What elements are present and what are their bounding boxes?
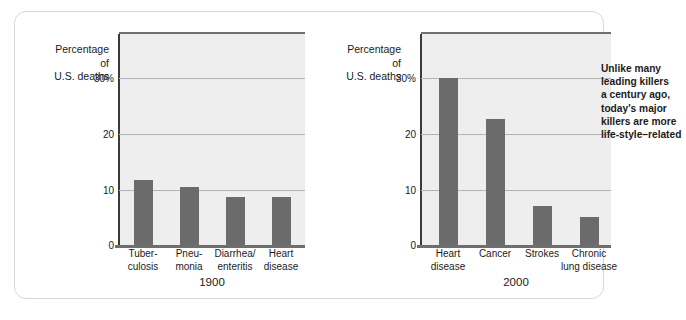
plot-area-1900: 30% 20 10 0 <box>119 32 305 245</box>
y-tick-label-0-1900: 0 <box>108 240 114 251</box>
category-label-line: disease <box>264 261 298 274</box>
category-label-line: Heart <box>264 248 298 261</box>
category-label-line: monia <box>175 261 202 274</box>
y-tick-label-10-1900: 10 <box>103 184 114 195</box>
category-label-line: Chronic <box>561 248 617 261</box>
y-axis-spine-2000 <box>420 34 422 245</box>
bar-pneumonia[interactable] <box>180 187 199 245</box>
chart-2000: Percentage of U.S. deaths 30% 20 10 0 Un… <box>303 12 598 300</box>
category-label-line: Pneu- <box>175 248 202 261</box>
y-tick-label-30-2000: 30% <box>396 73 416 84</box>
category-label-line: Tuber- <box>128 248 159 261</box>
category-label-pneumonia: Pneu- monia <box>175 248 202 273</box>
bar-chronic-lung-disease[interactable] <box>580 217 599 245</box>
y-axis-title-line-2: of <box>21 57 109 71</box>
category-label-heart-disease-2000: Heart disease <box>431 248 465 273</box>
chart-annotation: Unlike many leading killers a century ag… <box>601 62 686 141</box>
category-label-line: disease <box>431 261 465 274</box>
period-label-2000: 2000 <box>503 276 529 288</box>
bar-heart-disease-1900[interactable] <box>272 197 291 245</box>
category-label-tuberculosis: Tuber- culosis <box>128 248 159 273</box>
category-label-cancer: Cancer <box>479 248 511 261</box>
category-label-strokes: Strokes <box>525 248 559 261</box>
annotation-line: life-style–related <box>601 128 686 141</box>
y-tick-label-20-2000: 20 <box>405 129 416 140</box>
category-label-line: Heart <box>431 248 465 261</box>
bar-heart-disease-2000[interactable] <box>439 78 458 245</box>
category-label-line: Diarrhea/ <box>214 248 255 261</box>
annotation-line: killers are more <box>601 115 686 128</box>
category-label-line: enteritis <box>214 261 255 274</box>
category-label-chronic-lung-disease: Chronic lung disease <box>561 248 617 273</box>
period-label-1900: 1900 <box>199 276 225 288</box>
bar-strokes[interactable] <box>533 206 552 245</box>
annotation-line: a century ago, <box>601 88 686 101</box>
y-tick-label-10-2000: 10 <box>405 184 416 195</box>
annotation-line: today's major <box>601 102 686 115</box>
category-label-heart-disease-1900: Heart disease <box>264 248 298 273</box>
annotation-line: leading killers <box>601 75 686 88</box>
bar-diarrhea-enteritis[interactable] <box>226 197 245 245</box>
y-tick-label-20-1900: 20 <box>103 129 114 140</box>
y-tick-label-0-2000: 0 <box>410 240 416 251</box>
bar-tuberculosis[interactable] <box>134 180 153 246</box>
category-label-diarrhea-enteritis: Diarrhea/ enteritis <box>214 248 255 273</box>
plot-area-2000: 30% 20 10 0 Unlike many leading killers … <box>421 32 611 245</box>
annotation-line: Unlike many <box>601 62 686 75</box>
y-axis-title-line-3: U.S. deaths <box>313 70 401 84</box>
bar-cancer[interactable] <box>486 119 505 245</box>
y-axis-spine-1900 <box>118 34 120 245</box>
figure-card: Percentage of U.S. deaths 30% 20 10 0 Tu… <box>14 11 604 299</box>
y-axis-title-line-1: Percentage <box>313 43 401 57</box>
y-axis-title-line-1: Percentage <box>21 43 109 57</box>
category-label-line: Strokes <box>525 248 559 261</box>
category-label-line: culosis <box>128 261 159 274</box>
gridline-30-1900 <box>119 78 305 79</box>
y-tick-label-30-1900: 30% <box>94 73 114 84</box>
y-axis-title-2000: Percentage of U.S. deaths <box>313 43 401 84</box>
chart-1900: Percentage of U.S. deaths 30% 20 10 0 Tu… <box>15 12 310 300</box>
y-axis-title-line-2: of <box>313 57 401 71</box>
category-label-line: lung disease <box>561 261 617 274</box>
gridline-20-1900 <box>119 134 305 135</box>
category-label-line: Cancer <box>479 248 511 261</box>
